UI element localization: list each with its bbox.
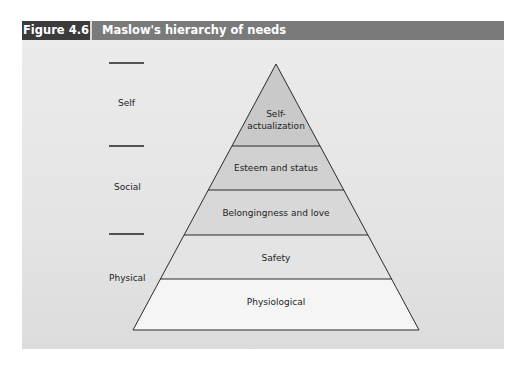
tier-label: Physiological [247,297,305,307]
tier-self-actualization [232,64,320,146]
tier-label: Self- [266,109,286,119]
group-label-physical: Physical [109,273,146,283]
tier-label: Esteem and status [234,163,318,173]
group-label-self: Self [118,98,135,108]
tier-label: actualization [247,121,305,131]
group-label-social: Social [114,182,141,192]
tier-label: Safety [262,253,291,263]
maslow-pyramid: Self- actualization Esteem and status Be… [0,0,525,367]
tier-label: Belongingness and love [222,208,330,218]
